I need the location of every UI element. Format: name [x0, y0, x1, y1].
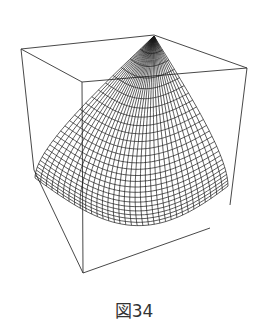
wireframe-figure: [0, 0, 268, 290]
mesh-surface: [35, 36, 228, 226]
figure-caption: 図34: [0, 297, 268, 322]
